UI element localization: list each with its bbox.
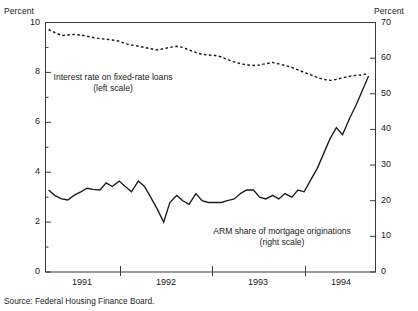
right-axis-tick-label: 70 xyxy=(381,17,407,27)
x-axis-year-label: 1991 xyxy=(52,277,112,287)
arm-share-annotation-line2: (right scale) xyxy=(197,237,367,248)
arm-share-annotation: ARM share of mortgage originations (righ… xyxy=(197,226,367,248)
right-axis-tick-label: 50 xyxy=(381,88,407,98)
left-axis-ticks xyxy=(46,23,52,273)
cropped-title-strip xyxy=(0,0,418,4)
right-axis-tick-label: 60 xyxy=(381,52,407,62)
left-axis-tick-label: 10 xyxy=(14,17,40,27)
chart-plot-area xyxy=(0,0,418,311)
source-note: Source: Federal Housing Finance Board. xyxy=(4,296,154,306)
arm-share-annotation-line1: ARM share of mortgage originations xyxy=(197,226,367,237)
right-axis-tick-label: 20 xyxy=(381,195,407,205)
left-axis-tick-label: 2 xyxy=(14,216,40,226)
right-axis-tick-label: 30 xyxy=(381,159,407,169)
right-axis-tick-label: 0 xyxy=(381,266,407,276)
right-axis-ticks xyxy=(370,23,376,273)
x-axis-year-label: 1994 xyxy=(311,277,371,287)
series-line-arm-share xyxy=(49,76,369,222)
fixed-rate-annotation-line1: Interest rate on fixed-rate loans xyxy=(28,72,198,83)
right-axis-tick-label: 40 xyxy=(381,123,407,133)
x-axis-ticks xyxy=(121,266,306,276)
fixed-rate-annotation-line2: (left scale) xyxy=(28,83,198,94)
figure-container: Percent Percent 0246810 010203040506070 … xyxy=(0,0,418,311)
left-axis-tick-label: 4 xyxy=(14,166,40,176)
x-axis-year-label: 1992 xyxy=(136,277,196,287)
right-axis-unit-label: Percent xyxy=(374,6,404,16)
fixed-rate-annotation: Interest rate on fixed-rate loans (left … xyxy=(28,72,198,94)
left-axis-tick-label: 6 xyxy=(14,116,40,126)
right-axis-tick-label: 10 xyxy=(381,230,407,240)
left-axis-unit-label: Percent xyxy=(4,6,34,16)
left-axis-tick-label: 0 xyxy=(14,266,40,276)
x-axis-year-label: 1993 xyxy=(228,277,288,287)
